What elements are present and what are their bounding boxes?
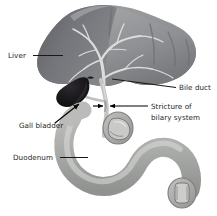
- diagram-canvas: Liver Bile duct Stricture of bilary syst…: [0, 0, 217, 216]
- duodenum-cross-section-inset: [168, 178, 196, 208]
- stricture-narrowing: [105, 101, 106, 111]
- duodenum-upper-limb: [72, 110, 83, 118]
- duct-cross-section-inset: [103, 112, 133, 144]
- label-stricture-line-2: bilary system: [151, 113, 200, 122]
- label-bile-duct: Bile duct: [179, 83, 211, 92]
- label-liver: Liver: [8, 51, 26, 60]
- label-gall-bladder: Gall bladder: [19, 121, 63, 130]
- biliary-system-diagram: Liver Bile duct Stricture of bilary syst…: [0, 0, 217, 216]
- label-stricture-line-1: Stricture of: [151, 102, 192, 111]
- label-duodenum: Duodenum: [13, 153, 53, 162]
